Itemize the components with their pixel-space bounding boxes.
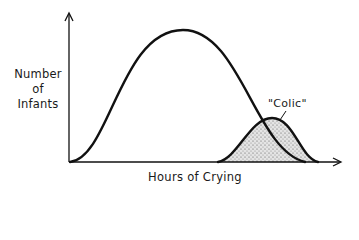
y-axis-label-line: of [10, 82, 66, 97]
colic-distribution-area [218, 118, 318, 162]
x-axis-label: Hours of Crying [120, 170, 270, 184]
y-axis-label-line: Number [10, 67, 66, 82]
colic-leader-line [280, 111, 286, 120]
colic-annotation: "Colic" [268, 97, 307, 110]
y-axis-label: Number of Infants [10, 67, 66, 112]
y-axis-label-line: Infants [10, 97, 66, 112]
